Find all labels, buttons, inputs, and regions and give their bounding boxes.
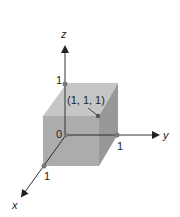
y-tick-label: 1: [117, 140, 123, 152]
y-axis-label: y: [162, 129, 170, 141]
point-111-dot: [96, 114, 100, 118]
z-axis-label: z: [60, 28, 67, 40]
x-axis-label: x: [11, 199, 18, 211]
y-tick-dot: [115, 133, 120, 138]
cube-diagram: z y x 1 1 1 0 (1, 1, 1): [0, 0, 180, 217]
x-tick-label: 1: [44, 170, 50, 182]
z-tick-dot: [63, 82, 68, 87]
point-label: (1, 1, 1): [67, 94, 105, 106]
cube-front-face: [43, 116, 99, 166]
origin-dot: [64, 133, 68, 137]
x-tick-dot: [42, 164, 47, 169]
origin-label: 0: [56, 128, 62, 140]
z-tick-label: 1: [56, 74, 62, 86]
